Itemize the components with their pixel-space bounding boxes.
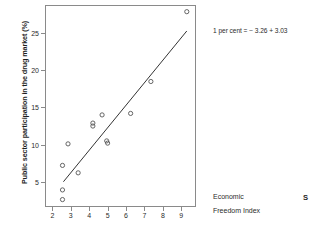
x-tick-label: 9 <box>179 212 183 219</box>
regression-equation-annotation: 1 per cent = − 3.26 + 3.03 <box>213 27 287 34</box>
data-point <box>149 79 153 83</box>
x-tick-mark <box>181 207 182 211</box>
x-tick-mark <box>108 207 109 211</box>
x-axis-caption-line-2: Freedom Index <box>213 207 260 214</box>
y-tick-mark <box>41 70 45 71</box>
data-point <box>66 142 70 146</box>
x-tick-label: 7 <box>142 212 146 219</box>
x-tick-mark <box>144 207 145 211</box>
y-tick-label: 25 <box>27 30 39 37</box>
y-tick-mark <box>41 107 45 108</box>
data-point <box>60 163 64 167</box>
x-axis-caption-line-1: Economic <box>213 193 244 200</box>
data-point <box>100 113 104 117</box>
data-point <box>76 171 80 175</box>
x-tick-label: 2 <box>50 212 54 219</box>
x-tick-label: 3 <box>69 212 73 219</box>
y-tick-mark <box>41 182 45 183</box>
y-tick-label: 10 <box>27 141 39 148</box>
data-point <box>185 10 189 14</box>
y-tick-label: 20 <box>27 67 39 74</box>
x-tick-label: 5 <box>106 212 110 219</box>
x-tick-mark <box>126 207 127 211</box>
x-tick-mark <box>71 207 72 211</box>
data-point <box>60 197 64 201</box>
y-tick-mark <box>41 145 45 146</box>
source-mark: S <box>303 193 308 202</box>
regression-line <box>63 31 186 182</box>
plot-area <box>45 5 196 207</box>
y-tick-label: 15 <box>27 104 39 111</box>
x-tick-mark <box>89 207 90 211</box>
data-point <box>129 111 133 115</box>
data-point <box>60 188 64 192</box>
y-tick-label: 5 <box>27 178 39 185</box>
x-tick-label: 6 <box>124 212 128 219</box>
y-tick-mark <box>41 33 45 34</box>
x-tick-mark <box>52 207 53 211</box>
x-tick-label: 4 <box>87 212 91 219</box>
x-tick-label: 8 <box>161 212 165 219</box>
data-point <box>91 124 95 128</box>
data-point-series <box>60 10 188 202</box>
scatter-plot-figure: Public sector participation in the drug … <box>0 0 316 227</box>
x-tick-mark <box>163 207 164 211</box>
